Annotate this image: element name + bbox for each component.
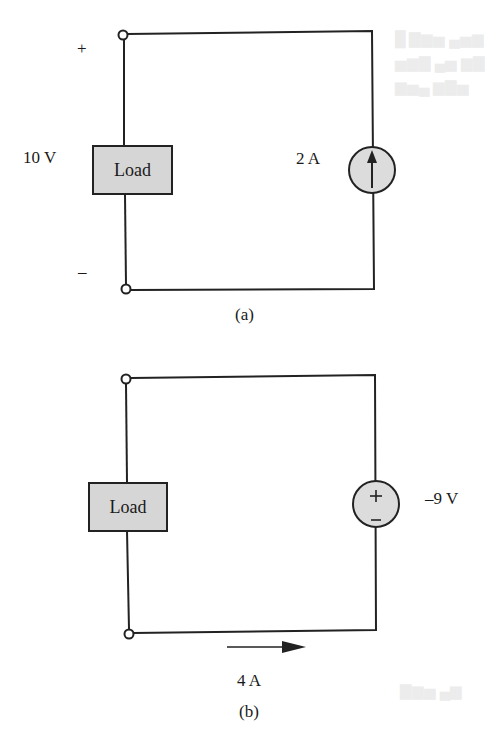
circuit-diagram [0, 0, 489, 740]
load-label-b: Load [110, 497, 147, 518]
minus-sign-a: – [78, 263, 87, 280]
load-label-a: Load [114, 160, 151, 181]
voltage-label-a: 10 V [23, 149, 56, 166]
source-label-a: 2 A [296, 150, 320, 167]
voltage-source-icon [353, 481, 399, 527]
terminal-bottom-a [122, 285, 131, 294]
terminal-bottom-b [125, 630, 134, 639]
plus-sign-a: + [77, 40, 87, 57]
current-label-b: 4 A [237, 672, 261, 689]
caption-a: (a) [235, 306, 254, 323]
terminal-top-a [119, 31, 128, 40]
load-box-a: Load [92, 145, 173, 195]
caption-b: (b) [239, 703, 259, 720]
source-label-b: –9 V [425, 490, 458, 507]
current-source-icon [349, 147, 395, 193]
current-arrow-icon [227, 641, 306, 653]
load-box-b: Load [88, 482, 168, 532]
terminal-top-b [122, 375, 131, 384]
